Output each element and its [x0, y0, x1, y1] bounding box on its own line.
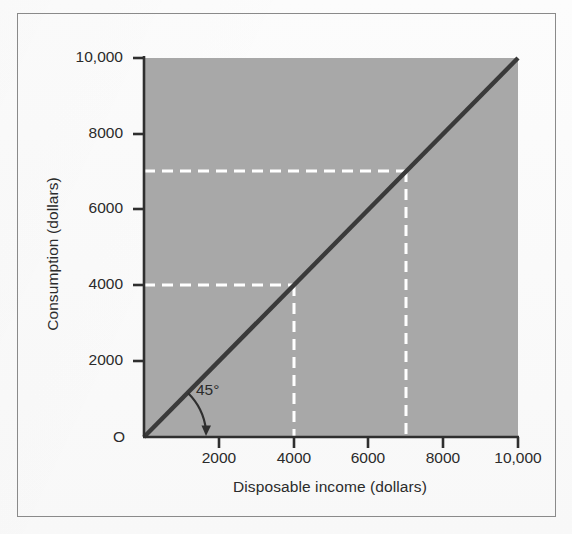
x-tick-label-8000: 8000	[403, 449, 483, 467]
x-tick-label-origin: O	[104, 428, 134, 446]
x-tick-label-4000: 4000	[254, 449, 334, 467]
x-tick-marks	[219, 437, 518, 448]
x-tick-label-6000: 6000	[328, 449, 408, 467]
angle-label: 45°	[196, 381, 219, 399]
x-tick-label-2000: 2000	[179, 449, 259, 467]
y-tick-label-8000: 8000	[33, 124, 123, 142]
figure-root: 10,000 8000 6000 4000 2000 O 2000 4000 6…	[0, 0, 572, 534]
y-tick-marks	[133, 58, 144, 361]
x-tick-label-10000: 10,000	[478, 449, 558, 467]
y-axis-title: Consumption (dollars)	[44, 154, 62, 354]
x-axis-title: Disposable income (dollars)	[190, 478, 470, 496]
y-tick-label-10000: 10,000	[33, 48, 123, 66]
